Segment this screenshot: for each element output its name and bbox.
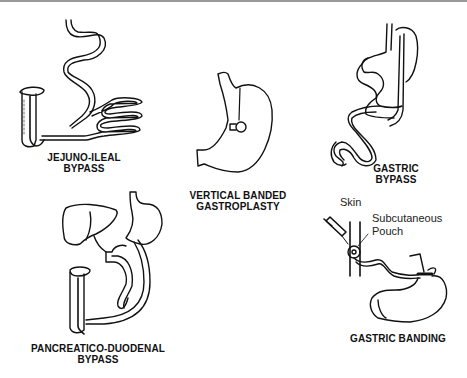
annotation-skin: Skin [340, 196, 361, 209]
annotation-line: Subcutaneous [372, 212, 442, 225]
label-line: VERTICAL BANDED [188, 190, 288, 201]
label-gastric-bypass: GASTRIC BYPASS [366, 163, 426, 185]
label-line: GASTRIC BANDING [346, 333, 450, 344]
label-line: BYPASS [46, 163, 122, 174]
label-jejuno-ileal: JEJUNO-ILEAL BYPASS [46, 152, 122, 174]
label-line: BYPASS [26, 354, 170, 365]
label-vbg: VERTICAL BANDED GASTROPLASTY [188, 190, 288, 212]
annotation-subcutaneous-pouch: Subcutaneous Pouch [372, 212, 442, 238]
jejuno-ileal-drawing [20, 20, 142, 147]
label-pancreatico-duodenal: PANCREATICO-DUODENAL BYPASS [26, 343, 170, 365]
label-line: GASTRIC [366, 163, 426, 174]
surgery-illustrations [0, 0, 467, 378]
label-line: BYPASS [366, 174, 426, 185]
label-line: PANCREATICO-DUODENAL [26, 343, 170, 354]
annotation-line: Pouch [372, 225, 442, 238]
label-gastric-banding: GASTRIC BANDING [346, 333, 450, 344]
label-line: JEJUNO-ILEAL [46, 152, 122, 163]
label-line: GASTROPLASTY [188, 201, 288, 212]
gastric-bypass-drawing [331, 24, 417, 166]
vbg-drawing [197, 73, 272, 173]
pancreatico-duodenal-drawing [63, 192, 162, 334]
